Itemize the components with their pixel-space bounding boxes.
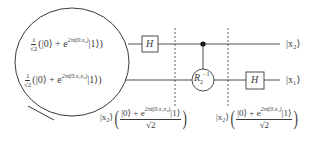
prefactor: 1 √2 [30, 37, 37, 53]
circle-handle-stroke [28, 106, 54, 120]
output-bottom-label: |x₁⟩ [286, 75, 300, 85]
intermediate-state-1: |x₂⟩( |0⟩ + e2πi(0.x₁x₂)|1⟩ √2 ) [100, 106, 189, 131]
input-state-bottom: 1 √2 (|0⟩ + e2πi(0.x₁x₂)|1⟩) [24, 73, 102, 89]
h-gate-top-label: H [146, 39, 153, 49]
output-top-label: |x₂⟩ [286, 39, 300, 49]
input-state-top: 1 √2 (|0⟩ + e2πi(0.x₂)|1⟩) [30, 37, 103, 53]
prefactor: 1 √2 [24, 73, 31, 89]
h-gate-bottom-label: H [251, 75, 258, 85]
rotation-gate-label: R2−1 [194, 73, 210, 83]
intermediate-state-2: |x₂⟩( |0⟩ + e2πi(0.x₁)|1⟩ √2 ) [216, 106, 300, 131]
highlight-circle [15, 8, 129, 116]
